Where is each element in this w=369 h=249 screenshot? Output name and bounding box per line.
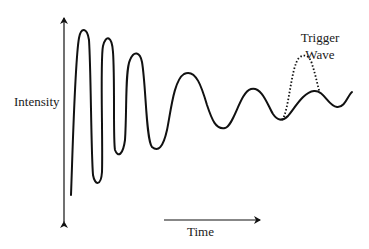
trigger-wave-label-line1: Trigger xyxy=(290,29,350,46)
y-axis-label: Intensity xyxy=(14,94,60,109)
trigger-wave-label: Trigger Wave xyxy=(290,29,350,63)
x-axis-label: Time xyxy=(187,224,214,239)
trigger-wave xyxy=(282,56,320,120)
trigger-wave-label-line2: Wave xyxy=(290,46,350,63)
